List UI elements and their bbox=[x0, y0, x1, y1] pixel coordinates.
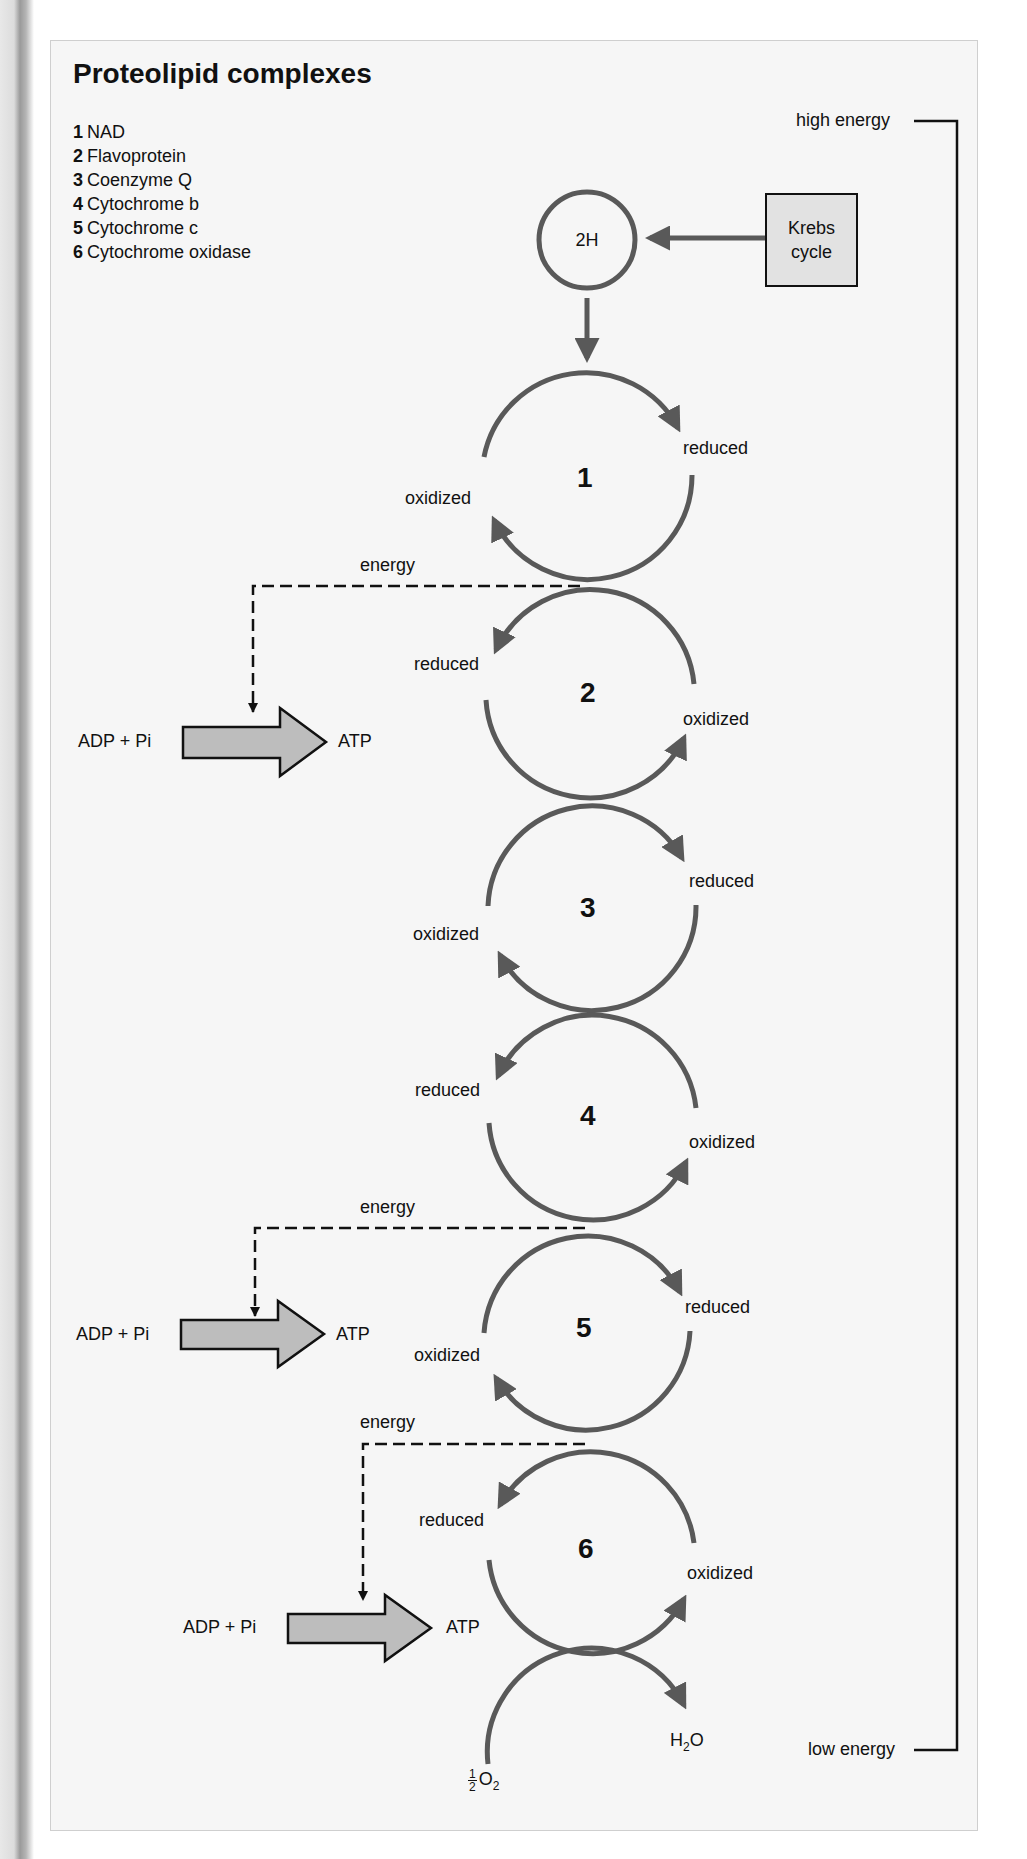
complex2-top-arc bbox=[496, 590, 694, 684]
complex5-right-label: reduced bbox=[685, 1297, 750, 1318]
complex6-bottom-arc bbox=[489, 1560, 684, 1654]
adp-label-3: ADP + Pi bbox=[183, 1617, 256, 1638]
atp-arrow-3 bbox=[288, 1595, 431, 1661]
electron-transport-diagram bbox=[0, 0, 1027, 1859]
hydrogen-label: 2H bbox=[539, 192, 635, 288]
complex5-bottom-arc bbox=[496, 1331, 690, 1430]
complex4-left-label: reduced bbox=[415, 1080, 480, 1101]
atp-arrow-2 bbox=[181, 1301, 324, 1367]
complex6-left-label: reduced bbox=[419, 1510, 484, 1531]
energy-label-3: energy bbox=[360, 1412, 415, 1433]
complex4-bottom-arc bbox=[489, 1123, 686, 1220]
complex3-right-label: reduced bbox=[689, 871, 754, 892]
complex3-left-label: oxidized bbox=[413, 924, 479, 945]
complex3-number: 3 bbox=[580, 892, 596, 924]
water-label: H2O bbox=[670, 1730, 704, 1754]
complex6-top-arc bbox=[500, 1452, 694, 1543]
energy-dashed-line-2 bbox=[255, 1228, 585, 1316]
complex1-top-arc bbox=[484, 373, 678, 457]
complex2-bottom-arc bbox=[486, 700, 684, 798]
complex1-right-label: reduced bbox=[683, 438, 748, 459]
oxygen-to-water-arc bbox=[487, 1648, 684, 1764]
complex6-right-label: oxidized bbox=[687, 1563, 753, 1584]
oxygen-label: 12O2 bbox=[468, 1768, 499, 1793]
complex4-top-arc bbox=[498, 1015, 696, 1108]
high-energy-label: high energy bbox=[796, 110, 890, 131]
energy-scale-bracket bbox=[914, 121, 957, 1750]
low-energy-label: low energy bbox=[808, 1739, 895, 1760]
energy-label-2: energy bbox=[360, 1197, 415, 1218]
complex3-top-arc bbox=[488, 806, 682, 906]
complex1-bottom-arc bbox=[494, 475, 692, 580]
energy-label-1: energy bbox=[360, 555, 415, 576]
complex5-number: 5 bbox=[576, 1312, 592, 1344]
atp-label-3: ATP bbox=[446, 1617, 480, 1638]
complex4-number: 4 bbox=[580, 1100, 596, 1132]
atp-label-2: ATP bbox=[336, 1324, 370, 1345]
complex4-right-label: oxidized bbox=[689, 1132, 755, 1153]
atp-arrow-1 bbox=[183, 708, 326, 776]
complex2-left-label: reduced bbox=[414, 654, 479, 675]
complex2-right-label: oxidized bbox=[683, 709, 749, 730]
adp-label-2: ADP + Pi bbox=[76, 1324, 149, 1345]
half-fraction: 12 bbox=[468, 1768, 477, 1793]
adp-label-1: ADP + Pi bbox=[78, 731, 151, 752]
atp-label-1: ATP bbox=[338, 731, 372, 752]
complex2-number: 2 bbox=[580, 677, 596, 709]
complex3-bottom-arc bbox=[500, 905, 696, 1011]
krebs-cycle-box: Krebscycle bbox=[765, 193, 858, 287]
complex5-left-label: oxidized bbox=[414, 1345, 480, 1366]
complex1-left-label: oxidized bbox=[405, 488, 471, 509]
energy-dashed-line-1 bbox=[253, 586, 580, 712]
complex1-number: 1 bbox=[577, 462, 593, 494]
complex6-number: 6 bbox=[578, 1533, 594, 1565]
